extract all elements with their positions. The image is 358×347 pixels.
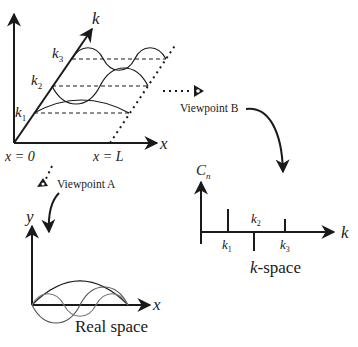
viewpoint-b: Viewpoint B — [163, 85, 283, 172]
k-space-caption: k-space — [250, 258, 301, 277]
k-space-k-label: k — [341, 223, 349, 242]
mode-k2 — [52, 68, 148, 104]
viewpoint-a-label: Viewpoint A — [57, 178, 116, 191]
diagram-canvas: k x x = 0 x = L k1 k2 k3 Viewpoint B Vie… — [0, 0, 358, 347]
mode-k3 — [72, 48, 166, 71]
top-x-axis-label: x — [159, 134, 168, 153]
k1-tick-label: k1 — [222, 237, 232, 254]
viewpoint-b-arrow — [246, 109, 283, 172]
eye-icon — [194, 85, 204, 97]
origin-label: x = 0 — [4, 149, 35, 164]
viewpoint-a: Viewpoint A — [37, 166, 116, 232]
real-space-y-label: y — [24, 207, 34, 226]
k-space-plot: Cn k k1 k2 k3 k-space — [196, 162, 349, 277]
x-equals-L-label: x = L — [92, 149, 124, 164]
viewpoint-b-label: Viewpoint B — [180, 102, 239, 115]
cn-axis-label: Cn — [196, 162, 211, 181]
eye-icon — [37, 178, 48, 187]
real-space-caption: Real space — [75, 317, 148, 336]
k2-label: k2 — [31, 72, 42, 91]
real-space-x-label: x — [152, 295, 161, 314]
top-panel: k x x = 0 x = L k1 k2 k3 — [4, 9, 176, 164]
viewpoint-a-arrow — [49, 193, 59, 232]
k3-label: k3 — [52, 45, 64, 64]
k1-label: k1 — [15, 104, 26, 123]
real-space-plot: y x Real space — [24, 207, 161, 336]
k2-tick-label: k2 — [251, 211, 261, 228]
mode-k1 — [34, 100, 129, 113]
top-k-axis-label: k — [92, 9, 100, 28]
k3-tick-label: k3 — [280, 237, 290, 254]
